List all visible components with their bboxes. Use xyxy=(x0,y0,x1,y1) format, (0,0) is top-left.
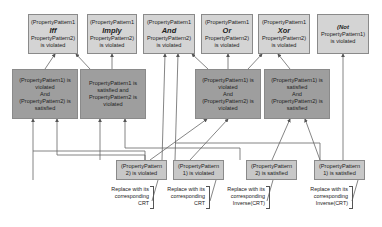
node-text: (PropertyPattern xyxy=(178,163,219,170)
node-text: PropertyPattern2) xyxy=(147,35,191,42)
node-text: (PropertyPattern1 xyxy=(31,19,75,26)
node-text: satisfied xyxy=(287,105,308,112)
operator-label: (Not xyxy=(337,24,349,31)
node-text: (PropertyPattern1 xyxy=(90,19,134,26)
node-text: 1) is violated xyxy=(183,170,214,177)
node-text: is violated xyxy=(157,42,182,49)
node-text: is violated xyxy=(331,38,356,45)
node-text: (PropertyPattern1 xyxy=(262,19,306,26)
top-node-or: (PropertyPattern1 Or PropertyPattern2) i… xyxy=(201,14,253,54)
node-text: (PropertyPattern xyxy=(121,163,162,170)
node-text: And xyxy=(292,91,302,98)
operator-label: Imply xyxy=(102,26,122,35)
node-text: 1) is satisfied xyxy=(323,170,356,177)
node-text: violated xyxy=(35,84,54,91)
mid-node-s-v: PropertyPattern1 is satisfied and Proper… xyxy=(80,69,146,119)
node-text: PropertyPattern2 is xyxy=(89,94,137,101)
node-text: (PropertyPattern2) is xyxy=(19,98,71,105)
node-text: (PropertyPattern2) is xyxy=(271,98,323,105)
operator-label: Or xyxy=(223,26,232,35)
bottom-node-p2-violated: (PropertyPattern 2) is violated xyxy=(116,160,167,180)
node-text: 2) is violated xyxy=(126,170,157,177)
top-node-iff: (PropertyPattern1 Iff PropertyPattern2) … xyxy=(28,14,78,54)
bottom-node-p1-violated: (PropertyPattern 1) is violated xyxy=(173,160,224,180)
node-text: is violated xyxy=(272,42,297,49)
node-text: PropertyPattern2) xyxy=(31,35,75,42)
bracket xyxy=(266,186,270,209)
top-node-xor: (PropertyPattern1 Xor PropertyPattern2) … xyxy=(258,14,310,54)
node-text: violated xyxy=(218,105,237,112)
mid-node-v-v: (PropertyPattern1) is violated And (Prop… xyxy=(195,69,261,119)
node-text: PropertyPattern1) xyxy=(321,31,365,38)
node-text: satisfied and xyxy=(97,87,128,94)
node-text: (PropertyPattern2) is xyxy=(202,98,254,105)
annotation-note: Replace with itscorrespondingInverse(CRT… xyxy=(302,186,348,207)
node-text: is violated xyxy=(100,42,125,49)
node-text: PropertyPattern2) xyxy=(90,35,134,42)
node-text: violated xyxy=(218,84,237,91)
mid-node-s-s: (PropertyPattern1) is satisfied And (Pro… xyxy=(264,69,330,119)
bracket xyxy=(349,186,353,209)
annotation-note: Replace with itscorrespondingInverse(CRT… xyxy=(219,186,265,207)
node-text: And xyxy=(223,91,233,98)
node-text: (PropertyPattern1) is xyxy=(19,77,71,84)
annotation-note: Replace with itscorrespondingCRT xyxy=(105,186,149,207)
node-text: (PropertyPattern1) is xyxy=(271,77,323,84)
bracket xyxy=(150,186,154,209)
node-text: (PropertyPattern xyxy=(251,163,292,170)
top-node-imply: (PropertyPattern1 Imply PropertyPattern2… xyxy=(87,14,137,54)
node-text: PropertyPattern1 is xyxy=(89,80,137,87)
node-text: And xyxy=(40,91,50,98)
node-text: satisfied xyxy=(287,84,308,91)
node-text: violated xyxy=(103,101,122,108)
operator-label: Xor xyxy=(278,26,291,35)
node-text: PropertyPattern2) xyxy=(205,35,249,42)
node-text: (PropertyPattern1 xyxy=(147,19,191,26)
operator-label: And xyxy=(162,26,177,35)
node-text: (PropertyPattern1) is xyxy=(202,77,254,84)
node-text: (PropertyPattern xyxy=(319,163,360,170)
node-text: PropertyPattern2) xyxy=(262,35,306,42)
bottom-node-p1-satisfied: (PropertyPattern 1) is satisfied xyxy=(314,160,365,180)
top-node-and: (PropertyPattern1 And PropertyPattern2) … xyxy=(143,14,195,54)
annotation-note: Replace with itscorrespondingCRT xyxy=(161,186,205,207)
bottom-node-p2-satisfied: (PropertyPattern 2) is satisfied xyxy=(246,160,297,180)
operator-label: Iff xyxy=(50,26,57,35)
node-text: is violated xyxy=(215,42,240,49)
node-text: 2) is satisfied xyxy=(255,170,288,177)
top-node-not: (Not PropertyPattern1) is violated xyxy=(317,14,369,54)
bracket xyxy=(206,186,210,209)
mid-node-v-s: (PropertyPattern1) is violated And (Prop… xyxy=(12,69,78,119)
node-text: satisfied xyxy=(35,105,56,112)
node-text: (PropertyPattern1 xyxy=(205,19,249,26)
node-text: is violated xyxy=(41,42,66,49)
